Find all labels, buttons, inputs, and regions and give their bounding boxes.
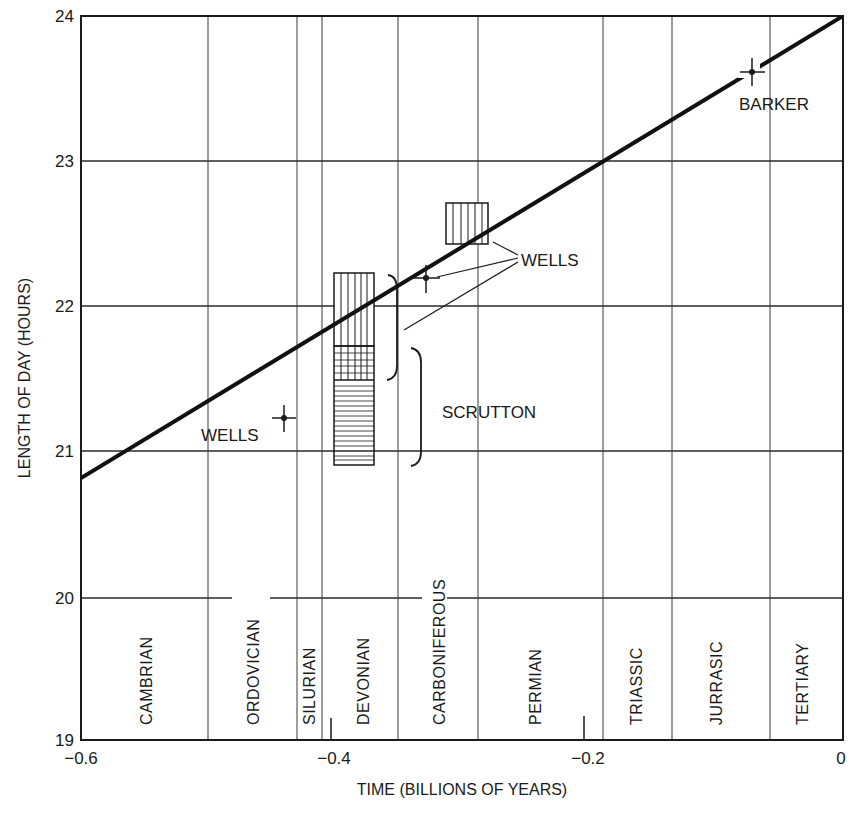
period-carboniferous: CARBONIFEROUS bbox=[431, 579, 448, 725]
plot-frame bbox=[81, 16, 843, 740]
y-tick-23: 23 bbox=[55, 152, 74, 171]
x-tick-neg-0.4: −0.4 bbox=[317, 749, 351, 768]
x-tick-neg-0.2: −0.2 bbox=[571, 749, 605, 768]
wells-point-ordovician bbox=[272, 405, 296, 432]
y-axis-title: LENGTH OF DAY (HOURS) bbox=[16, 278, 33, 478]
wells-label-right: WELLS bbox=[521, 251, 579, 270]
y-axis-ticks: 24 23 22 21 20 19 bbox=[55, 7, 74, 750]
period-permian: PERMIAN bbox=[527, 649, 544, 725]
period-cambrian: CAMBRIAN bbox=[138, 637, 155, 725]
period-silurian: SILURIAN bbox=[301, 647, 318, 725]
wells-label-left: WELLS bbox=[201, 426, 259, 445]
barker-label: BARKER bbox=[739, 95, 809, 114]
x-axis-title: TIME (BILLIONS OF YEARS) bbox=[357, 781, 567, 798]
x-tick-0: 0 bbox=[836, 749, 845, 768]
brackets bbox=[387, 275, 421, 466]
period-ordovician: ORDOVICIAN bbox=[245, 619, 262, 725]
period-triassic: TRIASSIC bbox=[628, 647, 645, 725]
carboniferous-wells-box bbox=[446, 203, 488, 244]
wells-point-carboniferous bbox=[412, 265, 440, 293]
y-tick-20: 20 bbox=[55, 589, 74, 608]
length-of-day-chart: 24 23 22 21 20 19 −0.6 −0.4 −0.2 0 TIME … bbox=[0, 0, 868, 822]
y-tick-24: 24 bbox=[55, 7, 74, 26]
period-devonian: DEVONIAN bbox=[355, 637, 372, 725]
y-tick-21: 21 bbox=[55, 442, 74, 461]
wells-leader-lines bbox=[404, 242, 518, 330]
y-tick-19: 19 bbox=[55, 731, 74, 750]
y-tick-22: 22 bbox=[55, 297, 74, 316]
x-tick-neg-0.6: −0.6 bbox=[64, 749, 98, 768]
vertical-gridlines bbox=[208, 16, 770, 740]
period-jurrasic: JURRASIC bbox=[708, 641, 725, 725]
scrutton-label: SCRUTTON bbox=[442, 403, 536, 422]
barker-point bbox=[738, 58, 765, 86]
x-axis-ticks: −0.6 −0.4 −0.2 0 bbox=[64, 749, 846, 768]
geologic-periods: CAMBRIAN ORDOVICIAN SILURIAN DEVONIAN CA… bbox=[138, 579, 811, 725]
period-tertiary: TERTIARY bbox=[794, 642, 811, 725]
